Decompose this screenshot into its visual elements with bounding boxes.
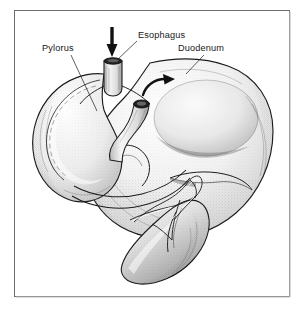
esophagus-tube: [104, 61, 122, 96]
label-duodenum: Duodenum: [178, 43, 224, 53]
figure-container: Pylorus Esophagus Duodenum: [0, 0, 301, 309]
cut-tube-lumen-inner: [137, 102, 146, 106]
esophagus-lumen-inner: [107, 59, 118, 62]
label-pylorus: Pylorus: [42, 43, 74, 53]
label-esophagus: Esophagus: [138, 30, 186, 40]
anatomical-illustration: Pylorus Esophagus Duodenum: [0, 0, 301, 309]
